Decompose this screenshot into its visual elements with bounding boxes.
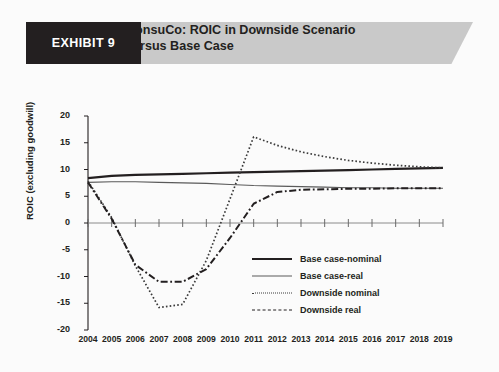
legend-label: Downside real [300,305,361,315]
series-line [88,168,443,178]
legend-swatch-solid-thick-icon [252,253,292,265]
legend-swatch-solid-thin-icon [252,270,292,282]
legend-item-downside-real: Downside real [252,301,432,318]
exhibit-number-block: EXHIBIT 9 [26,22,141,64]
series-line [88,182,443,188]
legend-swatch-dotted-icon [252,287,292,299]
exhibit-title: ConsuCo: ROIC in Downside Scenario versu… [126,23,426,54]
legend-swatch-dash-dot-icon [252,304,292,316]
exhibit-number-label: EXHIBIT 9 [52,36,115,50]
legend-item-base-case-real: Base case-real [252,267,432,284]
legend-item-downside-nominal: Downside nominal [252,284,432,301]
chart-legend: Base case-nominal Base case-real Downsid… [252,250,432,318]
exhibit-root: EXHIBIT 9 ConsuCo: ROIC in Downside Scen… [0,0,499,372]
exhibit-title-line-1: ConsuCo: ROIC in Downside Scenario [126,23,426,39]
exhibit-title-line-2: versus Base Case [126,39,426,55]
chart-area: ROIC (excluding goodwill) 20151050-5-10-… [0,70,499,372]
plot-svg [0,70,499,372]
legend-item-base-case-nominal: Base case-nominal [252,250,432,267]
legend-label: Base case-real [300,271,363,281]
legend-label: Base case-nominal [300,254,382,264]
legend-label: Downside nominal [300,288,380,298]
